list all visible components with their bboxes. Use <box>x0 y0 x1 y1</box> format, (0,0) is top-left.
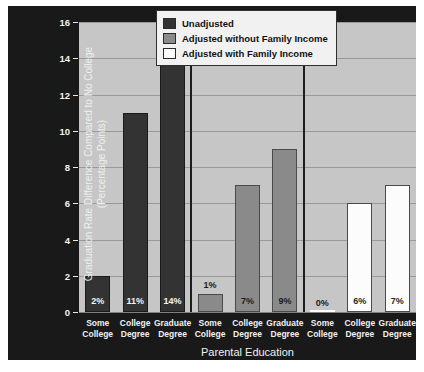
bar <box>160 58 185 312</box>
bar-value-label: 7% <box>391 296 404 306</box>
x-axis-tick-label: SomeCollege <box>82 318 113 340</box>
bar <box>385 185 410 312</box>
x-axis-tick-label: CollegeDegree <box>120 318 151 340</box>
y-axis-title: Graduation Rate Difference Compared to N… <box>82 14 108 314</box>
y-axis-tick-label: 2 <box>65 270 70 281</box>
x-axis-tick-label: SomeCollege <box>195 318 226 340</box>
bar <box>235 185 260 312</box>
bar <box>198 294 223 312</box>
y-axis-tick-mark <box>73 22 78 23</box>
x-axis-tick-label: GraduateDegree <box>154 318 191 340</box>
bar <box>123 113 148 312</box>
y-axis-tick-label: 0 <box>65 307 70 318</box>
y-axis-tick-label: 6 <box>65 198 70 209</box>
y-axis-tick-label: 14 <box>59 53 70 64</box>
bar-value-label: 11% <box>126 296 144 306</box>
legend-swatch <box>163 33 176 44</box>
y-axis-tick-mark <box>73 203 78 204</box>
y-axis-tick-label: 16 <box>59 17 70 28</box>
y-axis-tick-mark <box>73 95 78 96</box>
x-axis-title: Parental Education <box>79 346 416 358</box>
y-axis-tick-mark <box>73 276 78 277</box>
x-axis-tick-label: GraduateDegree <box>379 318 416 340</box>
bar-value-label: 14% <box>164 296 182 306</box>
bar <box>272 149 297 312</box>
legend-label: Unadjusted <box>182 18 234 29</box>
bar-value-label: 6% <box>353 296 366 306</box>
y-axis-tick-label: 8 <box>65 162 70 173</box>
y-axis-tick-label: 10 <box>59 125 70 136</box>
x-axis-tick-label: CollegeDegree <box>344 318 375 340</box>
bar-value-label: 9% <box>278 296 291 306</box>
y-axis-tick-mark <box>73 131 78 132</box>
y-axis-tick-mark <box>73 58 78 59</box>
legend-item: Adjusted with Family Income <box>163 46 328 60</box>
y-axis-tick-mark <box>73 167 78 168</box>
legend-label: Adjusted without Family Income <box>182 33 328 44</box>
chart-legend: UnadjustedAdjusted without Family Income… <box>156 10 337 66</box>
x-axis-tick-label: SomeCollege <box>307 318 338 340</box>
legend-label: Adjusted with Family Income <box>182 48 313 59</box>
y-axis-tick-label: 4 <box>65 234 70 245</box>
legend-item: Unadjusted <box>163 16 328 30</box>
x-axis-tick-label: CollegeDegree <box>232 318 263 340</box>
legend-swatch <box>163 18 176 29</box>
chart-figure: 02468101214162%SomeCollege11%CollegeDegr… <box>0 0 424 372</box>
bar-value-label: 1% <box>204 280 217 290</box>
x-axis-tick-label: GraduateDegree <box>266 318 303 340</box>
bar-value-label: 0% <box>316 298 329 308</box>
x-axis-baseline <box>79 312 416 313</box>
legend-swatch <box>163 48 176 59</box>
legend-item: Adjusted without Family Income <box>163 31 328 45</box>
bar-value-label: 7% <box>241 296 254 306</box>
y-axis-tick-mark <box>73 240 78 241</box>
chart-panel: 02468101214162%SomeCollege11%CollegeDegr… <box>8 6 416 360</box>
y-axis-tick-mark <box>73 312 78 313</box>
y-axis-tick-label: 12 <box>59 89 70 100</box>
gridline <box>79 95 416 96</box>
